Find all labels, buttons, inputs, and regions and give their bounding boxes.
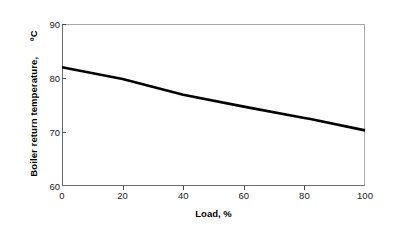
x-tick-label-40: 40 bbox=[163, 190, 203, 201]
x-tick-mark-40 bbox=[183, 186, 184, 190]
y-axis-title: Boiler return temperature,ºC bbox=[28, 9, 39, 199]
x-tick-mark-20 bbox=[123, 186, 124, 190]
x-tick-label-60: 60 bbox=[224, 190, 264, 201]
y-axis-title-text: Boiler return temperature, bbox=[28, 57, 39, 177]
x-tick-label-0: 0 bbox=[42, 190, 82, 201]
x-tick-label-20: 20 bbox=[103, 190, 143, 201]
x-tick-mark-80 bbox=[304, 186, 305, 190]
data-series-line bbox=[62, 24, 365, 186]
x-tick-label-80: 80 bbox=[284, 190, 324, 201]
chart-container: 90 80 70 60 0 20 40 60 80 100 Boiler ret… bbox=[0, 0, 396, 236]
y-axis-unit: ºC bbox=[28, 30, 39, 41]
x-tick-mark-60 bbox=[244, 186, 245, 190]
x-tick-label-100: 100 bbox=[345, 190, 385, 201]
x-axis-title: Load, % bbox=[62, 208, 365, 219]
